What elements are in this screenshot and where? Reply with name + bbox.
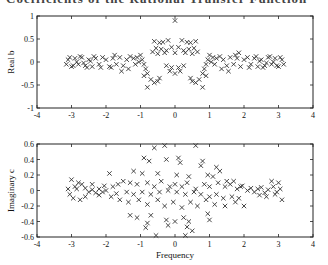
x-marker [145, 202, 149, 206]
x-marker [140, 190, 144, 194]
x-marker [173, 182, 177, 186]
x-marker [171, 200, 175, 204]
x-marker [278, 55, 282, 59]
x-marker [166, 223, 170, 227]
x-marker [188, 200, 192, 204]
x-marker [102, 184, 106, 188]
x-tick-label: -3 [68, 240, 75, 249]
x-marker [116, 182, 120, 186]
x-tick-label: 1 [208, 240, 212, 249]
x-marker [145, 85, 149, 89]
x-marker [233, 200, 237, 204]
x-marker [131, 169, 135, 173]
x-marker [159, 179, 163, 183]
x-marker [221, 196, 225, 200]
x-marker [88, 59, 92, 63]
x-marker [257, 59, 261, 63]
x-marker [164, 218, 168, 222]
x-marker [83, 195, 87, 199]
x-marker [194, 39, 198, 43]
x-marker [195, 50, 199, 54]
x-marker [125, 58, 129, 62]
x-marker [204, 198, 208, 202]
x-marker [238, 64, 242, 68]
x-marker [181, 215, 185, 219]
x-marker [180, 205, 184, 209]
x-marker [71, 196, 75, 200]
x-marker [185, 181, 189, 185]
x-marker [126, 67, 130, 71]
y-tick-label: 0.2 [24, 171, 34, 180]
y-axis-label: Real b [6, 50, 16, 74]
x-marker [145, 221, 149, 225]
x-marker [180, 38, 184, 42]
real-b-scatter-plot: -4-3-2-101234-1-0.500.51Real b [6, 12, 315, 120]
x-tick-label: 4 [311, 111, 315, 120]
data-points [66, 143, 284, 237]
x-marker [199, 192, 203, 196]
x-marker [266, 188, 270, 192]
x-marker [281, 62, 285, 66]
x-marker [150, 50, 154, 54]
x-marker [254, 54, 258, 58]
x-marker [131, 192, 135, 196]
x-marker [126, 200, 130, 204]
x-marker [147, 159, 151, 163]
x-marker [216, 181, 220, 185]
x-marker [152, 39, 156, 43]
x-marker [276, 181, 280, 185]
x-marker [128, 213, 132, 217]
x-marker [121, 63, 125, 67]
y-tick-label: 0 [30, 187, 34, 196]
figure: -4-3-2-101234-1-0.500.51Real b -4-3-2-10… [0, 0, 328, 265]
x-marker [64, 62, 68, 66]
x-marker [145, 181, 149, 185]
x-marker [226, 69, 230, 73]
x-marker [200, 159, 204, 163]
x-marker [74, 187, 78, 191]
x-marker [156, 198, 160, 202]
x-marker [169, 45, 173, 49]
x-marker [173, 71, 177, 75]
x-marker [175, 190, 179, 194]
x-marker [135, 215, 139, 219]
x-marker [199, 164, 203, 168]
x-marker [190, 52, 194, 56]
x-marker [143, 67, 147, 71]
x-marker [140, 171, 144, 175]
x-marker [223, 184, 227, 188]
x-marker [78, 54, 82, 58]
x-marker [90, 64, 94, 68]
x-marker [164, 157, 168, 161]
x-marker [114, 191, 118, 195]
x-marker [221, 58, 225, 62]
x-marker [256, 64, 260, 68]
y-axis-label: Imaginary c [6, 169, 16, 212]
plot-frame [37, 16, 313, 108]
x-marker [175, 173, 179, 177]
x-marker [173, 18, 177, 22]
x-marker [142, 156, 146, 160]
x-marker [211, 174, 215, 178]
y-tick-label: 0.4 [24, 156, 34, 165]
x-marker [118, 198, 122, 202]
x-marker [162, 204, 166, 208]
x-marker [280, 198, 284, 202]
x-tick-label: 2 [242, 240, 246, 249]
x-marker [188, 40, 192, 44]
x-tick-label: 3 [277, 240, 281, 249]
x-marker [206, 212, 210, 216]
x-marker [268, 54, 272, 58]
x-tick-label: 2 [242, 111, 246, 120]
x-marker [207, 184, 211, 188]
x-marker [109, 65, 113, 69]
x-tick-label: 4 [311, 240, 315, 249]
x-marker [143, 226, 147, 230]
x-marker [173, 51, 177, 55]
x-marker [78, 198, 82, 202]
x-marker [128, 181, 132, 185]
x-marker [149, 213, 153, 217]
x-marker [69, 177, 73, 181]
y-tick-label: -0.5 [21, 81, 34, 90]
x-marker [142, 62, 146, 66]
